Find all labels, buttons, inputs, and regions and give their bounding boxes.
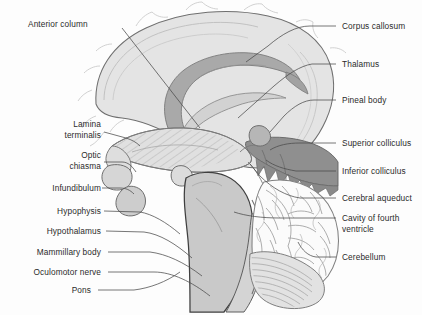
label-corpus-callosum: Corpus callosum [342, 21, 405, 32]
label-lamina-terminalis: Lamina terminalis [0, 119, 101, 140]
label-oculomotor-nerve: Oculomotor nerve [0, 267, 101, 278]
label-thalamus: Thalamus [342, 59, 379, 70]
label-cerebellum: Cerebellum [342, 252, 385, 263]
label-pons: Pons [0, 285, 91, 296]
label-cavity-fourth-ventricle-line1: Cavity of fourth [342, 213, 422, 224]
label-optic-chiasma-line1: Optic [0, 150, 101, 161]
label-lamina-terminalis-line1: Lamina [0, 119, 101, 130]
label-infundibulum: Infundibulum [0, 183, 101, 194]
label-lamina-terminalis-line2: terminalis [0, 130, 101, 141]
label-cavity-of-fourth-ventricle: Cavity of fourth ventricle [342, 213, 422, 234]
label-inferior-colliculus: Inferior colliculus [342, 166, 406, 177]
label-mammillary-body: Mammillary body [0, 247, 101, 258]
label-hypophysis: Hypophysis [0, 206, 101, 217]
label-cerebral-aqueduct: Cerebral aqueduct [342, 193, 412, 204]
label-optic-chiasma-line2: chiasma [0, 161, 101, 172]
label-hypothalamus: Hypothalamus [0, 226, 101, 237]
label-anterior-column: Anterior column [28, 19, 88, 30]
label-pineal-body: Pineal body [342, 95, 386, 106]
label-superior-colliculus: Superior colliculus [342, 138, 411, 149]
label-cavity-fourth-ventricle-line2: ventricle [342, 224, 422, 235]
label-optic-chiasma: Optic chiasma [0, 150, 101, 171]
pineal-body-shape [249, 126, 270, 146]
brain-midsagittal-diagram: Anterior column Lamina terminalis Optic … [0, 0, 422, 315]
